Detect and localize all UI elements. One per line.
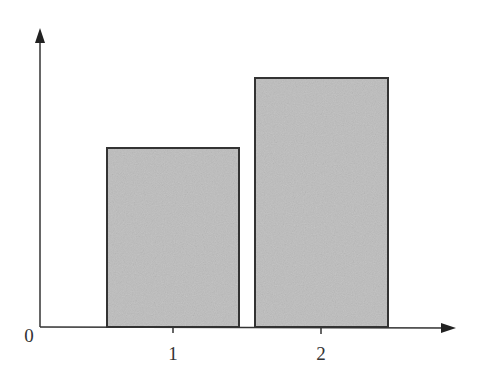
x-axis-arrow-icon xyxy=(441,323,456,333)
bar-chart xyxy=(0,0,477,380)
y-axis-arrow-icon xyxy=(35,28,45,43)
x-axis xyxy=(40,327,448,328)
bar-2 xyxy=(255,78,388,327)
x-tick-label-2: 2 xyxy=(316,343,326,365)
x-tick-label-1: 1 xyxy=(168,343,178,365)
bar-1 xyxy=(107,148,239,327)
origin-label: 0 xyxy=(24,325,34,347)
